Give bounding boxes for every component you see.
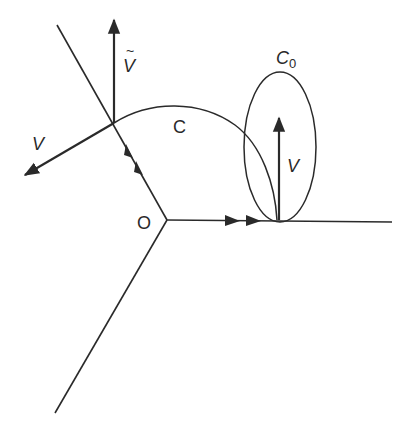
label-ellipse-C0-sub: 0 <box>289 56 296 71</box>
label-tilde-mark: ~ <box>126 43 134 59</box>
ray-lower-left <box>55 220 167 413</box>
diagram-canvas: O C C0 V ~ V V <box>0 0 410 431</box>
label-vector-V-right: V <box>287 156 301 176</box>
label-ellipse-C0: C0 <box>276 48 296 71</box>
label-vector-V-left: V <box>32 134 46 154</box>
curve-C <box>114 106 277 220</box>
label-curve-C: C <box>173 117 186 137</box>
label-origin: O <box>137 213 151 233</box>
label-ellipse-C0-main: C <box>276 48 290 68</box>
ray-upper-left <box>57 25 167 220</box>
label-vector-V-tilde: V <box>123 56 137 76</box>
